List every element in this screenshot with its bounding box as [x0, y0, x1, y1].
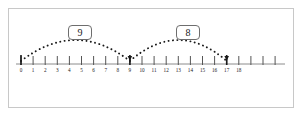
- jump-arrowhead: [128, 56, 133, 61]
- axis-tick-label: 8: [117, 67, 120, 73]
- jump-arc: [21, 40, 130, 61]
- axis-tick-label: 14: [188, 67, 194, 73]
- axis-tick-label: 13: [176, 67, 182, 73]
- axis-tick-label: 2: [44, 67, 47, 73]
- axis-tick-label: 0: [20, 67, 23, 73]
- axis-tick-label: 12: [164, 67, 170, 73]
- axis-tick-label: 16: [212, 67, 218, 73]
- axis-tick-label: 5: [80, 67, 83, 73]
- jump-label-2: 8: [176, 25, 200, 40]
- tick-labels-group: 0123456789101112131415161718: [20, 67, 242, 73]
- axis-tick-label: 3: [56, 67, 59, 73]
- axis-tick-label: 17: [224, 67, 230, 73]
- axis-tick-label: 1: [32, 67, 35, 73]
- figure-canvas: 0123456789101112131415161718 9 8: [0, 0, 303, 117]
- axis-tick-label: 11: [152, 67, 157, 73]
- axis-tick-label: 7: [104, 67, 107, 73]
- axis-tick-label: 15: [200, 67, 206, 73]
- axis-tick-label: 10: [139, 67, 145, 73]
- axis-tick-label: 6: [92, 67, 95, 73]
- axis-tick-label: 18: [236, 67, 242, 73]
- axis-tick-label: 9: [129, 67, 132, 73]
- jump-arcs-group: [21, 40, 227, 61]
- axis-tick-label: 4: [68, 67, 71, 73]
- jump-label-1: 9: [68, 25, 92, 40]
- number-line-diagram: 0123456789101112131415161718: [0, 0, 303, 117]
